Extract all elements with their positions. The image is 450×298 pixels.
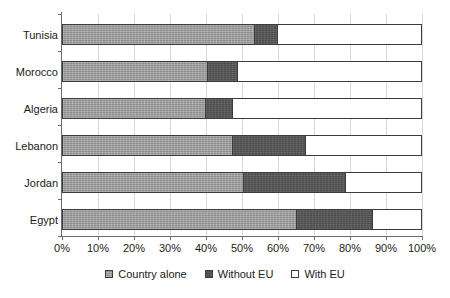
gridline — [386, 14, 387, 236]
category-label-lebanon: Lebanon — [15, 140, 58, 152]
bar-morocco — [62, 61, 422, 82]
x-axis-label-0pct: 0% — [54, 242, 70, 255]
bar-segment-with-eu — [346, 173, 421, 192]
x-axis-tick — [314, 236, 315, 240]
bar-segment-country-alone — [63, 25, 255, 44]
gridline — [206, 14, 207, 236]
bar-segment-with-eu — [278, 25, 421, 44]
legend-item-with-eu[interactable]: With EU — [291, 268, 344, 280]
x-axis-tick — [62, 236, 63, 240]
x-axis-tick — [386, 236, 387, 240]
x-axis-tick — [206, 236, 207, 240]
stacked-bar-chart: TunisiaMoroccoAlgeriaLebanonJordanEgypt … — [0, 0, 450, 298]
bar-segment-without-eu — [206, 99, 233, 118]
x-axis-label-60pct: 60% — [267, 242, 289, 255]
x-axis-label-50pct: 50% — [231, 242, 253, 255]
bar-lebanon — [62, 135, 422, 156]
bar-segment-without-eu — [297, 210, 372, 229]
plot-area — [62, 14, 422, 236]
category-label-tunisia: Tunisia — [23, 29, 58, 41]
x-axis-label-20pct: 20% — [123, 242, 145, 255]
bar-segment-without-eu — [255, 25, 278, 44]
x-axis-tick — [242, 236, 243, 240]
x-axis-label-100pct: 100% — [408, 242, 436, 255]
bar-segment-without-eu — [233, 136, 306, 155]
gridline — [134, 14, 135, 236]
y-axis-tick — [58, 14, 62, 15]
gridline — [98, 14, 99, 236]
bar-segment-country-alone — [63, 62, 208, 81]
category-label-morocco: Morocco — [16, 66, 58, 78]
x-axis-label-40pct: 40% — [195, 242, 217, 255]
bar-egypt — [62, 209, 422, 230]
bar-segment-with-eu — [306, 136, 421, 155]
x-axis-label-90pct: 90% — [375, 242, 397, 255]
gridline — [242, 14, 243, 236]
bar-segment-with-eu — [233, 99, 421, 118]
y-axis-tick — [58, 51, 62, 52]
bar-segment-country-alone — [63, 173, 244, 192]
x-axis-tick — [170, 236, 171, 240]
x-axis-label-70pct: 70% — [303, 242, 325, 255]
legend-item-without-eu[interactable]: Without EU — [205, 268, 274, 280]
bar-segment-country-alone — [63, 210, 297, 229]
x-axis-label-30pct: 30% — [159, 242, 181, 255]
category-label-jordan: Jordan — [24, 177, 58, 189]
chart-legend: Country aloneWithout EUWith EU — [0, 268, 450, 280]
gridline — [314, 14, 315, 236]
legend-item-country-alone[interactable]: Country alone — [105, 268, 187, 280]
gridline — [350, 14, 351, 236]
bar-segment-country-alone — [63, 136, 233, 155]
y-axis-tick — [58, 88, 62, 89]
category-label-egypt: Egypt — [30, 214, 58, 226]
gridline — [170, 14, 171, 236]
x-axis-tick — [98, 236, 99, 240]
dark-gray-swatch — [205, 270, 213, 278]
x-axis-tick — [278, 236, 279, 240]
white-swatch — [291, 270, 299, 278]
bar-jordan — [62, 172, 422, 193]
category-label-algeria: Algeria — [24, 103, 58, 115]
x-axis-tick — [422, 236, 423, 240]
bar-segment-without-eu — [244, 173, 346, 192]
light-gray-swatch — [105, 270, 113, 278]
gridline — [278, 14, 279, 236]
legend-label: With EU — [304, 268, 344, 280]
bar-algeria — [62, 98, 422, 119]
bar-segment-with-eu — [373, 210, 421, 229]
x-axis-tick — [134, 236, 135, 240]
y-axis-category-labels: TunisiaMoroccoAlgeriaLebanonJordanEgypt — [0, 14, 58, 236]
legend-label: Without EU — [218, 268, 274, 280]
x-axis-tick — [350, 236, 351, 240]
bar-segment-with-eu — [238, 62, 421, 81]
y-axis-tick — [58, 125, 62, 126]
legend-label: Country alone — [118, 268, 187, 280]
gridline — [422, 14, 423, 236]
bar-segment-country-alone — [63, 99, 206, 118]
x-axis-label-10pct: 10% — [87, 242, 109, 255]
x-axis-label-80pct: 80% — [339, 242, 361, 255]
y-axis-tick — [58, 162, 62, 163]
bar-segment-without-eu — [208, 62, 238, 81]
bar-tunisia — [62, 24, 422, 45]
y-axis-tick — [58, 199, 62, 200]
x-axis: 0%10%20%30%40%50%60%70%80%90%100% — [62, 236, 422, 258]
